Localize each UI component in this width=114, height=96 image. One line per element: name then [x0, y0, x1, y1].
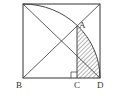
label-d: D [97, 80, 104, 90]
label-c: C [74, 80, 80, 90]
label-b: B [16, 80, 22, 90]
right-angle-mark [71, 72, 77, 78]
shaded-region [77, 26, 100, 78]
geometry-figure: A B C D [0, 0, 114, 96]
label-a: A [79, 20, 86, 30]
